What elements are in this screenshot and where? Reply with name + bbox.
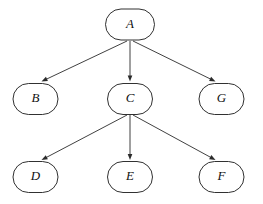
arrowhead-icon [128,76,133,82]
edge-a-to-b [42,41,128,82]
node-label: G [217,90,227,105]
node-b[interactable]: B [13,84,58,115]
nodes-layer: ABCGDEF [13,9,244,193]
node-label: E [125,168,134,183]
node-g[interactable]: G [199,84,244,115]
node-a[interactable]: A [106,9,155,40]
edge-line [46,41,127,79]
arrowhead-icon [209,77,215,82]
edge-a-to-c [128,41,133,82]
node-label: F [217,168,227,183]
edge-a-to-g [133,41,216,82]
arrowhead-icon [128,154,133,160]
arrowhead-icon [209,155,215,160]
edge-c-to-e [128,115,133,160]
node-f[interactable]: F [199,162,244,193]
node-e[interactable]: E [108,162,153,193]
graph-svg: ABCGDEF [0,0,263,204]
diagram-canvas: ABCGDEF [0,0,263,204]
node-c[interactable]: C [108,84,153,115]
edge-c-to-d [42,115,128,160]
node-label: B [32,90,40,105]
edge-line [46,115,127,158]
edge-line [133,115,211,158]
node-label: D [30,168,41,183]
arrowhead-icon [42,77,48,82]
node-label: A [125,16,134,31]
edge-c-to-f [133,115,216,160]
arrowhead-icon [42,155,48,160]
node-label: C [126,90,135,105]
node-d[interactable]: D [13,162,58,193]
edge-line [133,41,211,79]
